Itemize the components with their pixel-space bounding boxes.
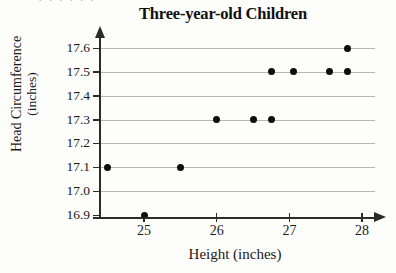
x-axis-tick-label: 26 <box>197 224 237 238</box>
gridline <box>100 96 375 97</box>
gridline <box>100 120 375 121</box>
y-axis-tick-label: 17.3 <box>44 113 90 127</box>
data-point <box>326 68 333 75</box>
plot-area: 16.917.017.117.217.317.417.517.6 2526272… <box>0 0 396 273</box>
data-point <box>290 68 297 75</box>
x-axis-arrow-icon <box>374 212 386 222</box>
gridline <box>100 72 375 73</box>
y-axis-tick-label: 17.0 <box>44 184 90 198</box>
y-axis-tick-label: 17.6 <box>44 41 90 55</box>
gridline <box>100 191 375 192</box>
x-axis-tick-label: 27 <box>269 224 309 238</box>
data-point <box>268 116 275 123</box>
y-axis-tick-label: 17.2 <box>44 136 90 150</box>
y-axis-tick-label: 17.5 <box>44 65 90 79</box>
data-point <box>104 164 111 171</box>
y-axis-tick-label: 17.4 <box>44 89 90 103</box>
y-axis-arrow-icon <box>95 26 105 38</box>
gridline <box>100 167 375 168</box>
x-axis-tick-label: 25 <box>124 224 164 238</box>
x-axis-line <box>93 217 375 219</box>
scatter-plot-figure: · · · · · · Three-year-old Children Head… <box>0 0 396 273</box>
data-point <box>177 164 184 171</box>
y-axis-tick-label: 17.1 <box>44 160 90 174</box>
data-point <box>344 45 351 52</box>
data-point <box>250 116 257 123</box>
gridline <box>100 48 375 49</box>
x-axis-tick-label: 28 <box>342 224 382 238</box>
data-point <box>344 68 351 75</box>
data-point <box>268 68 275 75</box>
gridline <box>100 143 375 144</box>
y-axis-line <box>99 36 101 218</box>
y-axis-tick-label: 16.9 <box>44 208 90 222</box>
data-point <box>213 116 220 123</box>
